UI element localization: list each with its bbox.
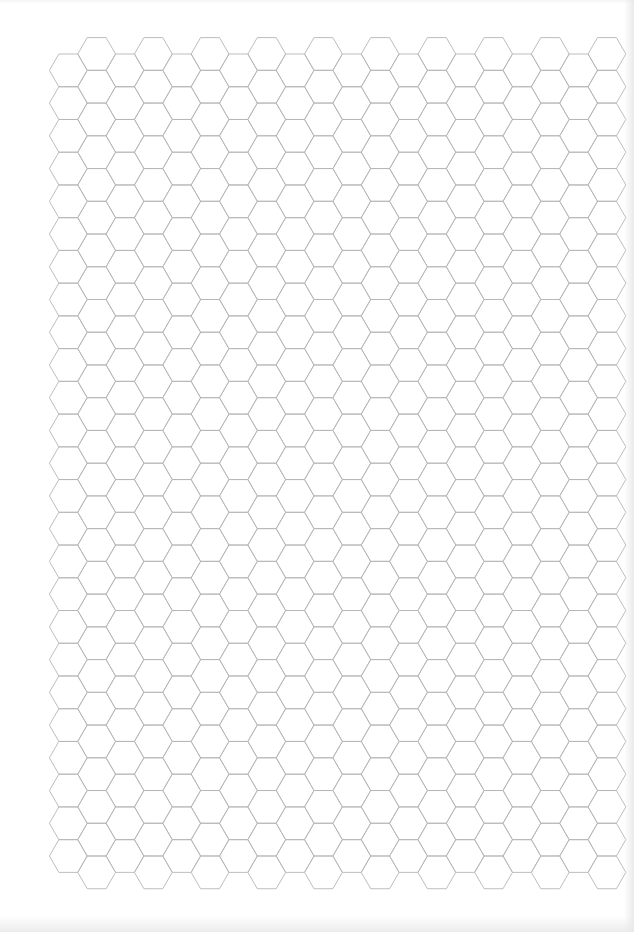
hexagon-grid bbox=[0, 0, 634, 932]
hex-graph-paper-page bbox=[0, 0, 634, 932]
hexagon-cells bbox=[49, 38, 625, 889]
